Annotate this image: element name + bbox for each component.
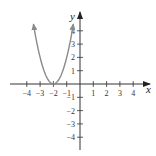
x-tick-label: −3 bbox=[36, 89, 45, 98]
x-tick-label: 1 bbox=[91, 89, 95, 98]
x-tick-label: −2 bbox=[49, 89, 58, 98]
x-tick-label: 3 bbox=[118, 89, 122, 98]
x-tick-label: 2 bbox=[105, 89, 109, 98]
y-tick-label: −1 bbox=[66, 93, 75, 102]
parabola-curve bbox=[33, 24, 73, 84]
y-tick-label: 1 bbox=[71, 67, 75, 76]
y-tick-label: −3 bbox=[66, 120, 75, 129]
y-tick-label: −2 bbox=[66, 107, 75, 116]
axes bbox=[10, 12, 150, 150]
y-tick-label: −4 bbox=[66, 133, 75, 142]
y-tick-label: 3 bbox=[71, 40, 75, 49]
graph: −4−3−2−11234 −4−3−2−11234 x y bbox=[0, 0, 156, 156]
y-axis-label: y bbox=[69, 10, 75, 22]
x-tick-label: 4 bbox=[131, 89, 135, 98]
x-tick-label: −4 bbox=[23, 89, 32, 98]
y-tick-label: 2 bbox=[71, 53, 75, 62]
x-axis-label: x bbox=[145, 83, 151, 95]
